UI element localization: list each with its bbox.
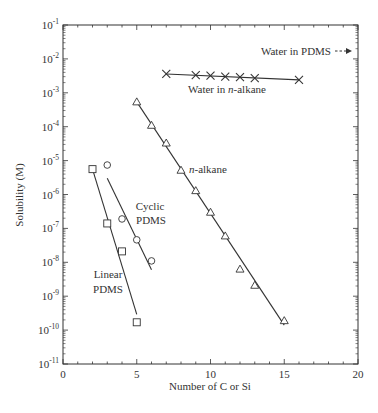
circle-marker-icon — [104, 162, 111, 169]
y-tick-label: 10-3 — [42, 85, 59, 99]
water-in-nalkane-label: Water in n-alkane — [188, 83, 266, 95]
triangle-marker-icon — [133, 98, 141, 105]
triangle-marker-icon — [236, 265, 244, 272]
linear-pdms-label-line1: Linear — [94, 268, 123, 280]
circle-marker-icon — [148, 258, 155, 265]
y-tick-label: 10-11 — [38, 356, 59, 370]
y-tick-labels: 10-110-210-310-410-510-610-710-810-910-1… — [38, 17, 59, 370]
cyclic-pdms-label-line2: PDMS — [136, 214, 166, 226]
square-marker-icon — [89, 166, 96, 173]
circle-marker-icon — [119, 216, 126, 223]
y-tick-label: 10-1 — [42, 17, 59, 31]
circle-marker-icon — [133, 237, 140, 244]
triangle-marker-icon — [148, 121, 156, 128]
y-tick-label: 10-8 — [42, 254, 59, 268]
y-axis-label: Solubility (M) — [13, 163, 26, 227]
x-tick-label: 20 — [353, 368, 365, 380]
square-marker-icon — [104, 220, 111, 227]
y-tick-label: 10-4 — [42, 119, 59, 133]
solubility-chart: 10-110-210-310-410-510-610-710-810-910-1… — [0, 0, 378, 413]
x-axis-label: Number of C or Si — [169, 380, 251, 392]
cyclic-pdms-label-line1: Cyclic — [136, 200, 165, 212]
water-in-pdms-annotation: Water in PDMS — [261, 45, 352, 57]
y-tick-label: 10-5 — [42, 153, 59, 167]
y-tick-label: 10-7 — [42, 220, 59, 234]
y-tick-label: 10-6 — [42, 187, 59, 201]
y-tick-label: 10-2 — [42, 51, 59, 65]
x-tick-label: 5 — [134, 368, 140, 380]
x-tick-label: 15 — [279, 368, 291, 380]
x-tick-labels: 05101520 — [60, 368, 364, 380]
linear-pdms-label-line2: PDMS — [93, 283, 123, 295]
y-tick-label: 10-9 — [42, 288, 59, 302]
square-marker-icon — [133, 319, 140, 326]
triangle-marker-icon — [221, 232, 229, 239]
water-in-pdms-label: Water in PDMS — [261, 45, 331, 57]
arrow-head-icon — [346, 48, 352, 54]
square-marker-icon — [119, 248, 126, 255]
x-tick-label: 0 — [60, 368, 66, 380]
series-linear-pdms — [89, 166, 140, 326]
nalkane-label: n-alkane — [189, 163, 227, 175]
x-tick-label: 10 — [205, 368, 217, 380]
y-tick-label: 10-10 — [38, 322, 59, 336]
series-water-in-n-alkane — [162, 70, 303, 84]
fit-line — [166, 74, 299, 80]
triangle-marker-icon — [177, 166, 185, 173]
